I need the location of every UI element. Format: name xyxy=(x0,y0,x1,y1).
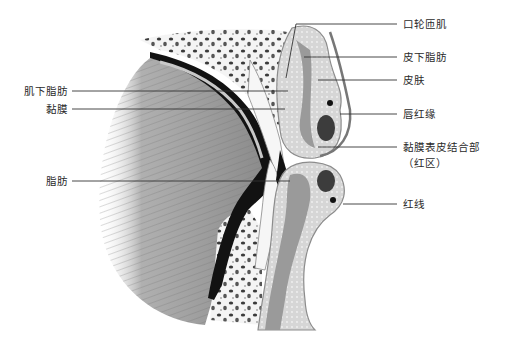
lower-labial-artery xyxy=(317,170,335,192)
label-fat: 脂肪 xyxy=(8,175,68,187)
label-red-line: 红线 xyxy=(403,198,425,210)
upper-labial-artery xyxy=(317,115,335,141)
label-mucosa: 黏膜 xyxy=(8,103,68,115)
label-red-zone: （红区） xyxy=(403,157,447,169)
label-skin: 皮肤 xyxy=(403,74,425,86)
upper-lip xyxy=(277,26,350,158)
label-submuscular-fat: 肌下脂肪 xyxy=(8,85,68,97)
label-vermilion-border: 唇红缘 xyxy=(403,108,436,120)
label-mucocutaneous-junction: 黏膜表皮结合部 xyxy=(403,141,480,153)
label-orbicularis-oris: 口轮匝肌 xyxy=(403,18,447,30)
label-subcutaneous-fat: 皮下脂肪 xyxy=(403,51,447,63)
